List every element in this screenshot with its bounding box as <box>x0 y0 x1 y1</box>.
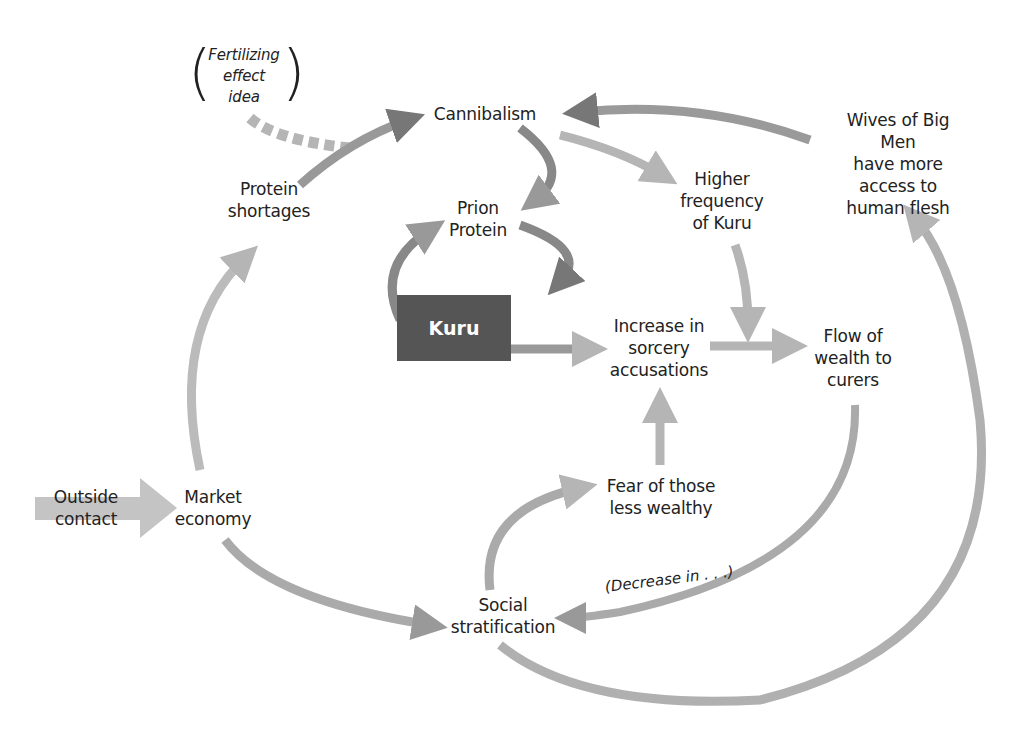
edge-wives-cannibalism <box>580 109 810 140</box>
edge-socialstrat-fear <box>489 488 580 590</box>
node-kuru: Kuru <box>397 295 511 361</box>
node-social-stratification: Social stratification <box>451 594 556 638</box>
edge-socialstrat-wives <box>500 218 982 701</box>
edge-protein-cannibalism <box>300 120 408 185</box>
edge-fertilizing-cannibalism <box>250 118 350 148</box>
node-flow-of-wealth-to-curers: Flow of wealth to curers <box>814 325 892 391</box>
node-cannibalism: Cannibalism <box>434 103 536 125</box>
node-wives-of-big-men: Wives of Big Men have more access to hum… <box>834 109 962 219</box>
edge-cannibalism-higherfreq <box>560 135 662 175</box>
edge-prion-kuru <box>520 225 569 282</box>
kuru-label: Kuru <box>429 317 480 339</box>
edge-cannibalism-prion <box>520 128 552 200</box>
node-outside-contact: Outside contact <box>54 486 118 530</box>
node-fear-of-those-less-wealthy: Fear of those less wealthy <box>607 475 715 519</box>
edge-higherfreq-flow <box>735 245 748 325</box>
node-higher-frequency-of-kuru: Higher frequency of Kuru <box>680 168 763 234</box>
right-paren: ) <box>282 42 305 102</box>
node-increase-in-sorcery-accusations: Increase in sorcery accusations <box>610 315 708 381</box>
node-prion-protein: Prion Protein <box>449 197 507 241</box>
edge-market-protein <box>191 258 245 470</box>
node-fertilizing-effect-idea: Fertilizing effect idea <box>208 45 279 108</box>
node-protein-shortages: Protein shortages <box>228 178 310 222</box>
edge-market-socialstrat <box>225 540 430 625</box>
node-market-economy: Market economy <box>175 486 252 530</box>
